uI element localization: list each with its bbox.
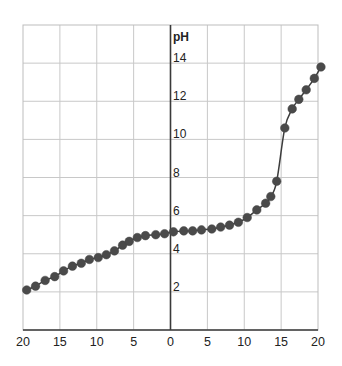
x-tick-label: 0 bbox=[167, 335, 174, 349]
data-point bbox=[169, 228, 178, 237]
y-tick-label: 6 bbox=[173, 204, 180, 218]
x-tick-label: 15 bbox=[53, 335, 67, 349]
data-point bbox=[110, 247, 119, 256]
y-tick-label: 10 bbox=[173, 127, 187, 141]
y-tick-label: 2 bbox=[173, 280, 180, 294]
data-point bbox=[68, 262, 77, 271]
data-point bbox=[59, 267, 68, 276]
data-point bbox=[141, 231, 150, 240]
data-point bbox=[252, 206, 261, 215]
data-point bbox=[151, 230, 160, 239]
x-tick-label: 10 bbox=[90, 335, 104, 349]
data-point bbox=[77, 259, 86, 268]
data-point bbox=[295, 95, 304, 104]
data-point bbox=[50, 272, 59, 281]
data-point bbox=[272, 177, 281, 186]
x-tick-label: 15 bbox=[274, 335, 288, 349]
data-point bbox=[22, 286, 31, 295]
data-point bbox=[94, 253, 103, 262]
data-point bbox=[225, 221, 234, 230]
x-tick-label: 5 bbox=[204, 335, 211, 349]
titration-chart: pH 2468101214 201510505101520 bbox=[0, 0, 342, 366]
data-point bbox=[188, 227, 197, 236]
data-point bbox=[31, 282, 40, 291]
x-tick-label: 5 bbox=[130, 335, 137, 349]
x-tick-label: 10 bbox=[237, 335, 251, 349]
data-point bbox=[234, 218, 243, 227]
y-axis-title: pH bbox=[173, 30, 189, 44]
data-point bbox=[302, 86, 311, 95]
x-tick-label: 20 bbox=[311, 335, 325, 349]
y-tick-labels: 2468101214 bbox=[173, 51, 187, 294]
data-point bbox=[41, 276, 50, 285]
data-point bbox=[281, 124, 290, 133]
x-tick-labels: 201510505101520 bbox=[16, 335, 325, 349]
data-point bbox=[133, 233, 142, 242]
data-point bbox=[243, 213, 252, 222]
data-point bbox=[288, 105, 297, 114]
y-tick-label: 8 bbox=[173, 166, 180, 180]
y-tick-label: 12 bbox=[173, 89, 187, 103]
data-point bbox=[317, 63, 326, 72]
data-point bbox=[216, 223, 225, 232]
data-point bbox=[85, 255, 94, 264]
x-tick-label: 20 bbox=[16, 335, 30, 349]
data-point bbox=[160, 229, 169, 238]
data-point bbox=[197, 226, 206, 235]
data-point bbox=[125, 237, 134, 246]
data-point bbox=[267, 192, 276, 201]
y-tick-label: 4 bbox=[173, 242, 180, 256]
y-tick-label: 14 bbox=[173, 51, 187, 65]
data-point bbox=[310, 74, 319, 83]
data-point bbox=[179, 227, 188, 236]
data-point bbox=[102, 250, 111, 259]
data-point bbox=[208, 225, 217, 234]
